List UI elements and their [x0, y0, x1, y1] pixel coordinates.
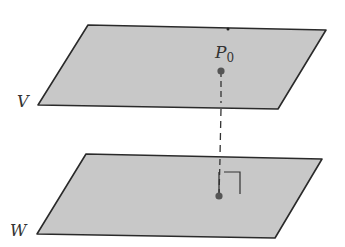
- label-w: W: [10, 221, 28, 240]
- top-edge-mark: [227, 28, 230, 31]
- point-p0: [217, 67, 224, 74]
- plane-v: [38, 25, 326, 109]
- parallel-planes-diagram: P0 V W: [0, 0, 345, 247]
- plane-w: [37, 154, 322, 238]
- foot-point: [215, 192, 222, 199]
- label-v: V: [17, 92, 30, 111]
- perpendicular-line-gap: [220, 109, 221, 156]
